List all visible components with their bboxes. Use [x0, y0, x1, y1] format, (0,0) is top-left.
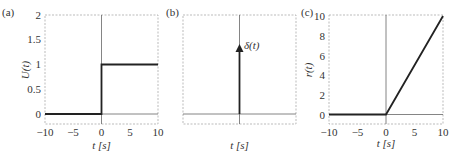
ytick: 4 [320, 69, 326, 81]
panel-c-xlabel: t [s] [377, 137, 396, 149]
xtick: 0 [99, 126, 105, 138]
ytick: 1 [36, 58, 42, 70]
xtick: 5 [412, 126, 418, 138]
xtick: −10 [36, 126, 54, 138]
panel-c-label: (c) [301, 6, 314, 19]
xtick: 10 [438, 126, 450, 138]
arrow-up-icon [236, 44, 244, 52]
xtick: −10 [320, 126, 338, 138]
ytick: 6 [320, 50, 326, 62]
ytick: 10 [314, 10, 326, 22]
panel-c: (c) 0 2 4 6 8 10 −10 −5 0 5 10 t [s] r(t… [301, 6, 449, 149]
panel-a: (a) 0 0.5 1 1.5 2 −10 −5 0 5 10 t [s] U(… [2, 6, 164, 151]
panel-b-label: (b) [166, 6, 179, 19]
figure: (a) 0 0.5 1 1.5 2 −10 −5 0 5 10 t [s] U(… [0, 0, 468, 159]
panel-a-label: (a) [2, 6, 15, 19]
panel-b-xlabel: t [s] [230, 139, 249, 151]
xtick: −5 [352, 126, 364, 138]
ytick: 2 [36, 9, 42, 21]
panel-b-annotation: δ(t) [244, 39, 260, 52]
ytick: 0.5 [27, 83, 41, 95]
panel-a-xlabel: t [s] [92, 139, 111, 151]
ytick: 1.5 [27, 33, 41, 45]
panel-a-step-line [45, 65, 158, 115]
panel-b: (b) δ(t) t [s] [166, 6, 296, 151]
ytick: 0 [36, 108, 42, 120]
xtick: 5 [127, 126, 133, 138]
xtick: 10 [153, 126, 165, 138]
ytick: 8 [320, 30, 326, 42]
panel-c-ylabel: r(t) [302, 62, 315, 77]
ytick: 0 [320, 109, 326, 121]
xtick: −5 [67, 126, 79, 138]
panel-a-ylabel: U(t) [19, 61, 32, 80]
ytick: 2 [320, 89, 326, 101]
